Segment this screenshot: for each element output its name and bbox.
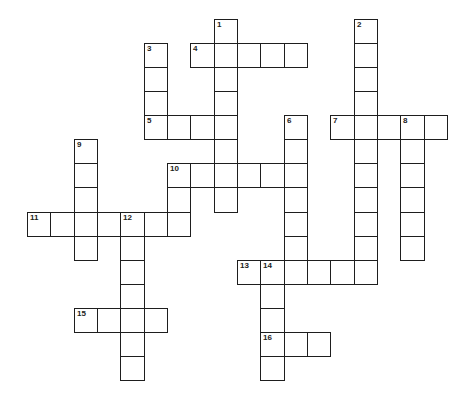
crossword-cell[interactable]: 9 — [74, 139, 98, 164]
crossword-cell[interactable] — [260, 356, 285, 381]
crossword-cell[interactable] — [97, 308, 121, 333]
crossword-cell[interactable] — [400, 163, 425, 188]
crossword-cell[interactable] — [284, 260, 308, 285]
crossword-cell[interactable] — [354, 139, 378, 164]
crossword-cell[interactable] — [74, 236, 98, 261]
crossword-cell[interactable]: 3 — [144, 43, 168, 68]
crossword-cell[interactable] — [354, 212, 378, 237]
crossword-cell[interactable] — [307, 260, 331, 285]
clue-number: 11 — [30, 214, 38, 222]
crossword-cell[interactable] — [284, 212, 308, 237]
crossword-cell[interactable] — [214, 67, 238, 92]
crossword-cell[interactable] — [284, 332, 308, 357]
crossword-cell[interactable] — [190, 115, 215, 140]
crossword-cell[interactable] — [97, 212, 121, 237]
crossword-cell[interactable]: 16 — [260, 332, 285, 357]
crossword-cell[interactable]: 14 — [260, 260, 285, 285]
crossword-cell[interactable]: 2 — [354, 19, 378, 44]
crossword-cell[interactable] — [354, 115, 378, 140]
crossword-cell[interactable] — [260, 284, 285, 309]
clue-number: 12 — [123, 214, 132, 222]
crossword-cell[interactable] — [284, 139, 308, 164]
crossword-cell[interactable] — [330, 260, 355, 285]
crossword-cell[interactable] — [214, 187, 238, 213]
crossword-cell[interactable] — [354, 187, 378, 213]
crossword-cell[interactable] — [284, 187, 308, 213]
crossword-cell[interactable] — [214, 139, 238, 164]
crossword-cell[interactable] — [260, 163, 285, 188]
crossword-cell[interactable] — [237, 163, 261, 188]
clue-number: 14 — [263, 262, 272, 270]
clue-number: 10 — [170, 165, 179, 173]
crossword-cell[interactable] — [260, 43, 285, 68]
crossword-cell[interactable] — [167, 115, 191, 140]
crossword-cell[interactable] — [400, 212, 425, 237]
crossword-cell[interactable] — [354, 163, 378, 188]
crossword-cell[interactable]: 6 — [284, 115, 308, 140]
crossword-cell[interactable]: 13 — [237, 260, 261, 285]
crossword-grid: 12354678910111213141615 — [0, 0, 470, 399]
crossword-cell[interactable] — [167, 187, 191, 213]
crossword-cell[interactable] — [190, 163, 215, 188]
crossword-cell[interactable]: 8 — [400, 115, 425, 140]
crossword-cell[interactable]: 1 — [214, 19, 238, 44]
crossword-cell[interactable] — [120, 308, 145, 333]
crossword-cell[interactable] — [120, 260, 145, 285]
crossword-cell[interactable] — [214, 43, 238, 68]
crossword-cell[interactable] — [284, 236, 308, 261]
crossword-cell[interactable] — [400, 187, 425, 213]
crossword-cell[interactable] — [144, 308, 168, 333]
crossword-cell[interactable] — [120, 356, 145, 381]
crossword-cell[interactable] — [214, 115, 238, 140]
crossword-cell[interactable] — [260, 308, 285, 333]
clue-number: 7 — [333, 117, 337, 125]
crossword-cell[interactable] — [144, 212, 168, 237]
crossword-cell[interactable] — [74, 187, 98, 213]
crossword-cell[interactable] — [354, 236, 378, 261]
crossword-cell[interactable] — [377, 115, 401, 140]
clue-number: 8 — [403, 117, 407, 125]
crossword-cell[interactable] — [144, 91, 168, 116]
clue-number: 3 — [147, 45, 151, 53]
crossword-cell[interactable] — [50, 212, 75, 237]
clue-number: 5 — [147, 117, 151, 125]
clue-number: 6 — [287, 117, 291, 125]
clue-number: 9 — [77, 141, 81, 149]
crossword-cell[interactable] — [214, 163, 238, 188]
clue-number: 15 — [77, 310, 86, 318]
crossword-cell[interactable] — [74, 212, 98, 237]
crossword-cell[interactable] — [354, 260, 378, 285]
crossword-cell[interactable] — [214, 91, 238, 116]
crossword-cell[interactable]: 4 — [190, 43, 215, 68]
crossword-cell[interactable] — [237, 43, 261, 68]
crossword-cell[interactable] — [284, 43, 308, 68]
crossword-cell[interactable] — [400, 139, 425, 164]
clue-number: 1 — [217, 21, 221, 29]
crossword-cell[interactable]: 15 — [74, 308, 98, 333]
crossword-cell[interactable] — [167, 212, 191, 237]
crossword-cell[interactable] — [354, 43, 378, 68]
crossword-cell[interactable] — [424, 115, 448, 140]
crossword-cell[interactable]: 10 — [167, 163, 191, 188]
crossword-cell[interactable] — [284, 163, 308, 188]
crossword-cell[interactable] — [120, 236, 145, 261]
clue-number: 13 — [240, 262, 249, 270]
crossword-cell[interactable]: 12 — [120, 212, 145, 237]
crossword-cell[interactable] — [144, 67, 168, 92]
clue-number: 4 — [193, 45, 197, 53]
clue-number: 16 — [263, 334, 272, 342]
crossword-cell[interactable]: 7 — [330, 115, 355, 140]
crossword-cell[interactable]: 5 — [144, 115, 168, 140]
crossword-cell[interactable] — [307, 332, 331, 357]
crossword-cell[interactable] — [354, 67, 378, 92]
crossword-cell[interactable] — [120, 332, 145, 357]
clue-number: 2 — [357, 21, 361, 29]
crossword-cell[interactable] — [354, 91, 378, 116]
crossword-cell[interactable] — [120, 284, 145, 309]
crossword-cell[interactable] — [400, 236, 425, 261]
crossword-cell[interactable]: 11 — [27, 212, 51, 237]
crossword-cell[interactable] — [74, 163, 98, 188]
